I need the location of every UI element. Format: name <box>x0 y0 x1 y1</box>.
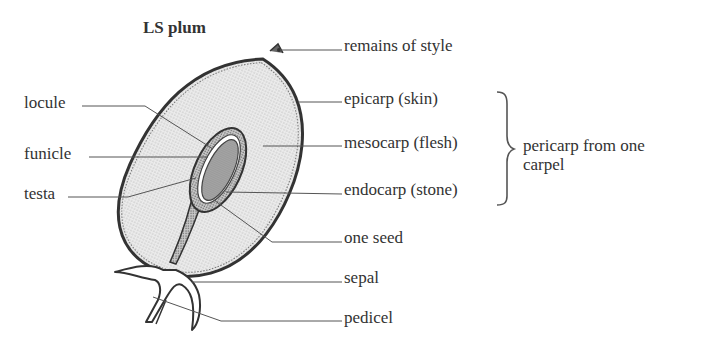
style-remains <box>270 44 283 53</box>
label-mesocarp: mesocarp (flesh) <box>344 133 458 153</box>
figure-title: LS plum <box>143 18 206 38</box>
label-funicle: funicle <box>24 144 71 164</box>
label-endocarp: endocarp (stone) <box>344 180 458 200</box>
label-epicarp: epicarp (skin) <box>344 89 438 109</box>
label-one-seed: one seed <box>344 228 403 248</box>
pericarp-brace <box>497 92 514 205</box>
label-locule: locule <box>24 93 66 113</box>
label-pedicel: pedicel <box>344 308 393 328</box>
label-pericarp-line2: carpel <box>523 155 565 175</box>
label-testa: testa <box>24 184 55 204</box>
plum-diagram: LS plum locule funicle testa remains of … <box>0 0 707 345</box>
label-remains-of-style: remains of style <box>344 36 453 56</box>
label-pericarp-line1: pericarp from one <box>523 136 645 156</box>
label-sepal: sepal <box>344 268 379 288</box>
